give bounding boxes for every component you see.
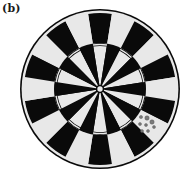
dart-mark — [147, 130, 150, 133]
dart-mark — [139, 123, 142, 126]
dart-mark — [153, 126, 156, 129]
bullseye — [97, 86, 102, 91]
dart-mark — [150, 120, 154, 124]
dartboard-group — [20, 9, 180, 169]
dartboard — [0, 0, 194, 183]
dart-mark — [139, 115, 142, 118]
dart-mark — [145, 124, 148, 127]
dart-mark — [145, 116, 149, 120]
dart-mark — [141, 130, 144, 133]
